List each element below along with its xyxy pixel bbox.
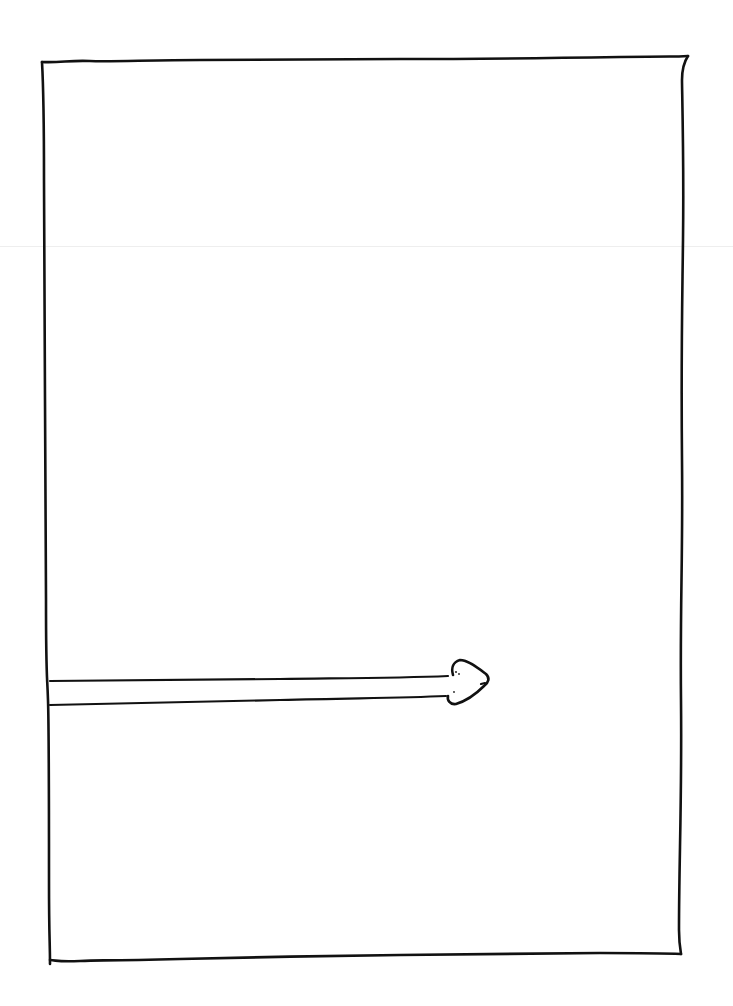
arrow-right-icon — [50, 660, 488, 705]
sketch-canvas — [0, 0, 733, 1006]
frame-rectangle — [42, 56, 688, 964]
